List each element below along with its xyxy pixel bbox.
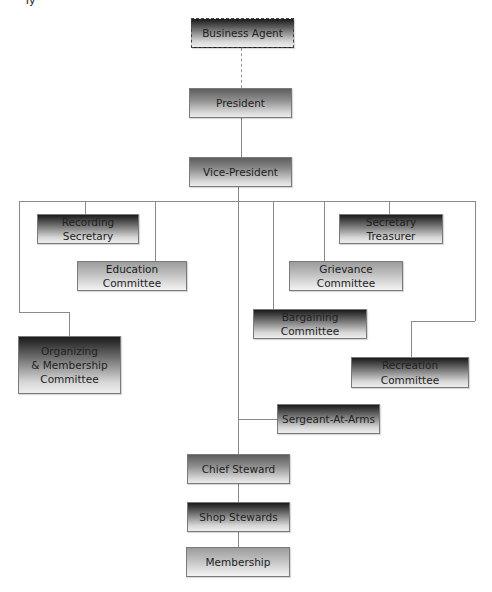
connector-president-vice-president (241, 118, 242, 157)
connector-horizontal-bus (19, 201, 475, 202)
connector-bargaining-committee (273, 201, 274, 309)
connector-recreation-1 (475, 201, 476, 321)
node-label: Secretary Treasurer (340, 215, 442, 243)
node-chief-steward: Chief Steward (187, 454, 290, 484)
node-vice-president: Vice-President (189, 157, 292, 187)
node-label: Sergeant-At-Arms (278, 412, 379, 426)
connector-vice-president-trunk (238, 187, 239, 454)
node-organizing-membership-committee: Organizing & Membership Committee (18, 336, 121, 394)
connector-sergeant-at-arms (238, 419, 277, 420)
node-label: Bargaining Committee (254, 310, 366, 338)
node-bargaining-committee: Bargaining Committee (253, 309, 367, 339)
node-label-line3: Committee (36, 372, 102, 386)
connector-grievance-committee (324, 201, 325, 261)
node-education-committee: Education Committee (77, 261, 187, 291)
connector-recreation-2 (411, 321, 475, 322)
connector-organizing-1 (19, 201, 20, 312)
connector-recording-secretary (85, 201, 86, 214)
node-label: Recreation Committee (352, 358, 468, 386)
node-shop-stewards: Shop Stewards (187, 502, 290, 532)
node-label-line2: & Membership (27, 358, 111, 372)
node-label: Grievance Committee (290, 262, 402, 290)
connector-shop-membership (238, 532, 239, 547)
title-fragment: Ty (24, 0, 36, 7)
node-label: Chief Steward (198, 462, 279, 476)
connector-chief-shop (238, 484, 239, 502)
node-label: Vice-President (199, 165, 282, 179)
node-label: Recording Secretary (38, 215, 138, 243)
connector-organizing-2 (19, 312, 69, 313)
node-label: President (212, 96, 269, 110)
connector-education-committee (155, 201, 156, 261)
node-label: Education Committee (78, 262, 186, 290)
node-label: Business Agent (198, 26, 287, 40)
node-recreation-committee: Recreation Committee (351, 357, 469, 388)
node-label: Membership (202, 555, 275, 569)
node-business-agent: Business Agent (191, 18, 294, 48)
node-secretary-treasurer: Secretary Treasurer (339, 214, 443, 244)
node-president: President (189, 88, 292, 118)
connector-recreation-3 (411, 321, 412, 357)
node-label: Shop Stewards (195, 510, 281, 524)
connector-secretary-treasurer (389, 201, 390, 214)
node-sergeant-at-arms: Sergeant-At-Arms (277, 404, 380, 434)
node-label-line1: Organizing (37, 344, 102, 358)
connector-business-agent-president (241, 48, 242, 88)
node-membership: Membership (186, 547, 290, 577)
node-grievance-committee: Grievance Committee (289, 261, 403, 291)
node-recording-secretary: Recording Secretary (37, 214, 139, 244)
connector-organizing-3 (69, 312, 70, 336)
